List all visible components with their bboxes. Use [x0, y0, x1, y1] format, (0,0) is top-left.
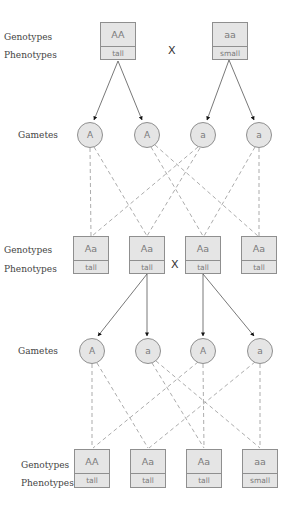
cross-symbol-parents: X: [168, 44, 176, 57]
f1-gamete-4: a: [247, 338, 273, 364]
phenotype: tall: [131, 474, 165, 487]
genotype: AA: [75, 450, 109, 474]
label-genotypes-f1: Genotypes: [4, 245, 52, 255]
f1-box-4: Aa tall: [241, 236, 277, 274]
p-gamete-3: a: [190, 122, 216, 148]
genotype: aa: [243, 450, 277, 474]
label-phenotypes-f1: Phenotypes: [4, 264, 57, 274]
genotype: Aa: [242, 237, 276, 261]
phenotype: tall: [130, 261, 164, 274]
phenotype: small: [243, 474, 277, 487]
parent-arrows: [94, 60, 254, 120]
f2-box-3: Aa tall: [186, 449, 222, 488]
label-phenotypes-parents: Phenotypes: [4, 50, 57, 60]
f1-gamete-dashed-lines: [92, 361, 260, 448]
genotype: Aa: [187, 450, 221, 474]
genotype: Aa: [74, 237, 108, 261]
f1-box-3: Aa tall: [185, 236, 221, 274]
genotype: aa: [213, 23, 247, 47]
label-genotypes-parents: Genotypes: [4, 32, 52, 42]
phenotype: tall: [242, 261, 276, 274]
genotype: Aa: [130, 237, 164, 261]
f2-box-2: Aa tall: [130, 449, 166, 488]
monohybrid-cross-diagram: Genotypes Phenotypes Gametes AA tall X a…: [0, 0, 297, 505]
label-phenotypes-f2: Phenotypes: [21, 478, 74, 488]
p-gamete-4: a: [246, 122, 272, 148]
phenotype: small: [213, 47, 247, 60]
label-genotypes-f2: Genotypes: [21, 460, 69, 470]
f2-box-4: aa small: [242, 449, 278, 488]
f1-gamete-1: A: [79, 338, 105, 364]
phenotype: tall: [186, 261, 220, 274]
f1-gamete-3: A: [190, 338, 216, 364]
cross-symbol-f1: X: [171, 258, 179, 271]
phenotype: tall: [187, 474, 221, 487]
genotype: Aa: [131, 450, 165, 474]
phenotype: tall: [101, 47, 135, 60]
parent-box-1: AA tall: [100, 22, 136, 60]
f1-arrows: [98, 274, 254, 336]
phenotype: tall: [74, 261, 108, 274]
f2-box-1: AA tall: [74, 449, 110, 488]
genotype: AA: [101, 23, 135, 47]
label-gametes-f1: Gametes: [18, 346, 58, 356]
phenotype: tall: [75, 474, 109, 487]
p-gamete-dashed-lines: [90, 145, 259, 236]
parent-box-2: aa small: [212, 22, 248, 60]
p-gamete-2: A: [134, 122, 160, 148]
p-gamete-1: A: [77, 122, 103, 148]
label-gametes-p: Gametes: [18, 130, 58, 140]
f1-gamete-2: a: [135, 338, 161, 364]
f1-box-2: Aa tall: [129, 236, 165, 274]
f1-box-1: Aa tall: [73, 236, 109, 274]
genotype: Aa: [186, 237, 220, 261]
